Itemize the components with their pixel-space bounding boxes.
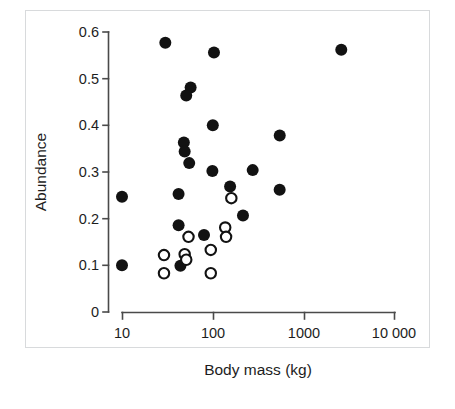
data-point-filled (159, 37, 171, 49)
data-point-filled (274, 184, 286, 196)
data-point-filled (173, 188, 185, 200)
data-point-filled (208, 47, 220, 59)
scatter-plot: 0.6 0.5 0.4 0.3 0.2 0.1 0 Abundance 10 1… (0, 0, 455, 409)
data-point-filled (335, 44, 347, 56)
x-axis-ticks (123, 313, 395, 320)
data-points-layer (116, 37, 347, 279)
x-tick-label-100: 100 (201, 325, 225, 341)
data-point-filled (247, 164, 259, 176)
y-tick-label-0_1: 0.1 (79, 257, 99, 273)
y-tick-label-0_2: 0.2 (79, 211, 99, 227)
data-point-filled (183, 157, 195, 169)
series-open (159, 193, 237, 279)
data-point-filled (206, 165, 218, 177)
data-point-open (226, 193, 236, 203)
data-point-filled (237, 209, 249, 221)
y-tick-label-0: 0 (91, 304, 99, 320)
data-point-filled (207, 119, 219, 131)
x-axis: 10 100 1000 10 000 Body mass (kg) (114, 313, 416, 379)
y-tick-label-0_4: 0.4 (79, 117, 99, 133)
data-point-open (221, 232, 231, 242)
data-point-open (181, 255, 191, 265)
y-axis-title: Abundance (32, 133, 49, 211)
x-axis-title: Body mass (kg) (204, 361, 312, 378)
data-point-open (206, 245, 216, 255)
x-tick-label-10: 10 (114, 325, 130, 341)
data-point-open (206, 268, 216, 278)
data-point-filled (198, 229, 210, 241)
data-point-filled (224, 180, 236, 192)
data-point-open (159, 268, 169, 278)
y-tick-label-0_5: 0.5 (79, 71, 99, 87)
data-point-filled (116, 191, 128, 203)
y-axis: 0.6 0.5 0.4 0.3 0.2 0.1 0 Abundance (32, 24, 109, 320)
data-point-filled (173, 219, 185, 231)
data-point-filled (179, 145, 191, 157)
data-point-open (183, 232, 193, 242)
data-point-filled (180, 89, 192, 101)
data-point-filled (274, 130, 286, 142)
y-tick-label-0_6: 0.6 (79, 24, 99, 40)
data-point-open (159, 250, 169, 260)
chart-figure: 0.6 0.5 0.4 0.3 0.2 0.1 0 Abundance 10 1… (0, 0, 455, 409)
x-tick-label-10000: 10 000 (372, 325, 416, 341)
y-tick-label-0_3: 0.3 (79, 164, 99, 180)
data-point-filled (116, 259, 128, 271)
y-axis-tick-labels: 0.6 0.5 0.4 0.3 0.2 0.1 0 (79, 24, 99, 320)
x-axis-tick-labels: 10 100 1000 10 000 (114, 325, 416, 341)
x-tick-label-1000: 1000 (288, 325, 320, 341)
y-axis-ticks (103, 32, 109, 312)
